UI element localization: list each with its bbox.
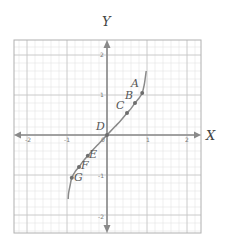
y-axis-bottom-arrow-icon <box>104 225 111 233</box>
point-label-b: B <box>124 89 133 102</box>
point-marker-d <box>105 133 109 137</box>
x-axis-label: X <box>205 128 216 143</box>
y-tick-1: 1 <box>100 91 104 98</box>
point-marker-c <box>125 111 129 115</box>
plot-svg: -2 -1 0 1 2 2 1 -1 -2 A B C D E F G X Y <box>0 0 225 248</box>
y-tick-neg1: -1 <box>98 172 104 179</box>
x-tick-neg2: -2 <box>25 136 31 143</box>
y-axis-label: Y <box>102 14 112 29</box>
point-label-d: D <box>95 120 105 133</box>
x-axis-right-arrow-icon <box>194 132 201 139</box>
x-tick-2: 2 <box>185 136 189 143</box>
point-marker-a <box>140 91 144 95</box>
y-axis-top-arrow-icon <box>104 40 111 48</box>
coordinate-plane-figure: -2 -1 0 1 2 2 1 -1 -2 A B C D E F G X Y <box>0 0 225 248</box>
y-tick-neg2: -2 <box>98 213 104 220</box>
point-label-c: C <box>116 99 125 112</box>
x-tick-1: 1 <box>146 136 150 143</box>
y-tick-2: 2 <box>100 51 104 58</box>
point-label-e: E <box>88 148 97 161</box>
point-marker-b <box>133 101 137 105</box>
point-label-g: G <box>74 171 83 184</box>
x-tick-neg1: -1 <box>64 136 70 143</box>
x-axis-left-arrow-icon <box>14 132 21 139</box>
